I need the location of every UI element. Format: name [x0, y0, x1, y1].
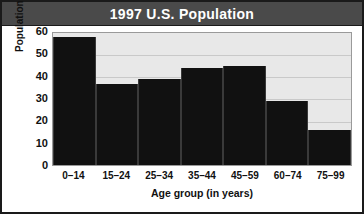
bar-series: [53, 33, 351, 165]
bar: [138, 79, 181, 165]
x-axis-tick-labels: 0–1415–2425–3435–4445–5960–7475–99: [52, 170, 352, 181]
chart-header: 1997 U.S. Population: [2, 2, 362, 26]
chart-body: Population (in millions) 60 50 40 30 20 …: [2, 26, 362, 212]
x-tick-label: 15–24: [95, 170, 138, 181]
x-tick-label: 45–59: [223, 170, 266, 181]
x-tick-label: 25–34: [138, 170, 181, 181]
chart-card: 1997 U.S. Population Population (in mill…: [0, 0, 364, 214]
y-tick-label: 40: [2, 70, 48, 82]
x-tick-label: 60–74: [266, 170, 309, 181]
x-tick-label: 0–14: [52, 170, 95, 181]
bar: [96, 84, 139, 165]
chart-title: 1997 U.S. Population: [110, 6, 254, 22]
bar: [53, 37, 96, 165]
x-tick-label: 35–44: [181, 170, 224, 181]
x-tick-label: 75–99: [309, 170, 352, 181]
y-tick-label: 10: [2, 137, 48, 149]
y-tick-label: 20: [2, 114, 48, 126]
y-tick-label: 50: [2, 47, 48, 59]
x-axis-title: Age group (in years): [52, 187, 352, 199]
y-tick-label: 60: [2, 25, 48, 37]
y-axis-tick-labels: 60 50 40 30 20 10 0: [2, 32, 48, 166]
y-tick-label: 0: [2, 159, 48, 171]
y-tick-label: 30: [2, 92, 48, 104]
bar: [308, 130, 351, 165]
bar: [181, 68, 224, 165]
bar: [223, 66, 266, 165]
plot-background: [52, 32, 352, 166]
bar: [266, 101, 309, 165]
plot-area: [52, 32, 352, 166]
